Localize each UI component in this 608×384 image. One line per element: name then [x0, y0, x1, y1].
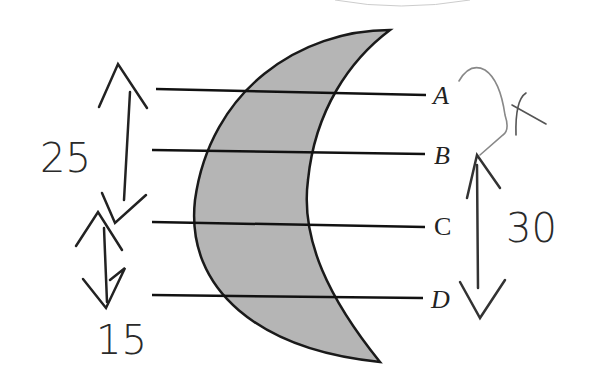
x-mark [459, 68, 546, 155]
measure-arrow-25 [99, 64, 147, 223]
diagram-canvas [0, 0, 608, 384]
crescent-shape [194, 30, 390, 362]
line-label-b: B [434, 143, 450, 169]
measure-arrow-30 [460, 155, 505, 318]
line-label-c: C [434, 214, 451, 240]
measure-label-30: 30 [506, 208, 557, 248]
measure-label-15: 15 [96, 320, 147, 360]
line-label-a: A [433, 83, 449, 109]
line-d [152, 295, 423, 298]
measure-label-25: 25 [40, 138, 91, 178]
measure-arrow-15 [76, 212, 125, 308]
line-label-d: D [431, 287, 450, 313]
faint-arc [335, 0, 470, 6]
